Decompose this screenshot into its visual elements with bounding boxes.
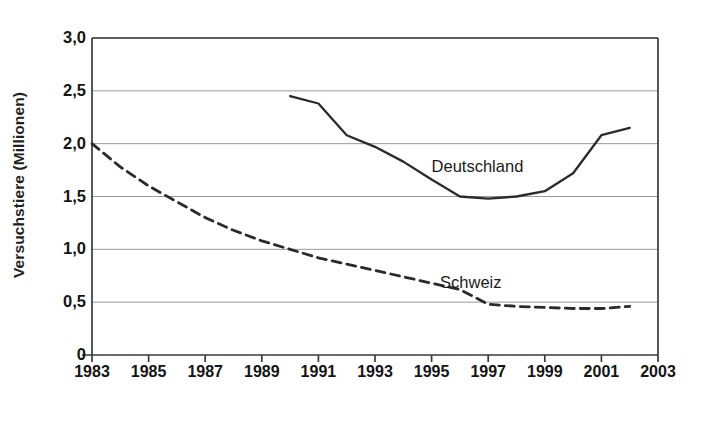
series-line-deutschland [290,96,630,198]
series-label-schweiz: Schweiz [440,273,501,292]
x-tick-label: 2003 [628,363,688,381]
x-tick-label: 1985 [119,363,179,381]
y-axis-title: Versuchstiere (Millionen) [6,30,32,340]
y-tick-label: 1,0 [42,240,86,256]
x-tick-label: 1997 [458,363,518,381]
series-line-schweiz [92,144,630,309]
y-tick-label: 0 [42,346,86,362]
x-tick-label: 1989 [232,363,292,381]
y-tick-label: 1,5 [42,188,86,204]
x-tick-label: 1987 [175,363,235,381]
x-tick-label: 1999 [515,363,575,381]
y-tick-label: 3,0 [42,29,86,45]
x-tick-label: 1991 [288,363,348,381]
series-label-deutschland: Deutschland [432,157,524,176]
x-tick-label: 1995 [402,363,462,381]
y-tick-label: 2,0 [42,135,86,151]
x-tick-label: 1993 [345,363,405,381]
x-tick-label: 2001 [571,363,631,381]
chart-figure: Versuchstiere (Millionen) 00,51,01,52,02… [0,0,703,433]
y-tick-label: 2,5 [42,82,86,98]
x-tick-label: 1983 [62,363,122,381]
y-tick-label: 0,5 [42,293,86,309]
